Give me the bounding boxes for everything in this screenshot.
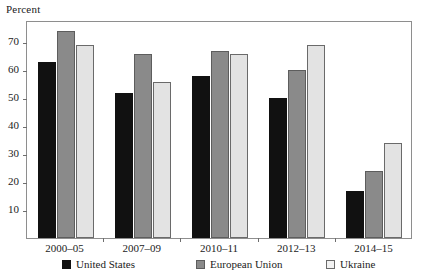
y-axis-unit-label: Percent: [6, 3, 40, 15]
bar-chart-figure: Percent 10203040506070 2000–052007–09201…: [0, 0, 421, 279]
y-axis-tick-label: 70: [8, 36, 19, 47]
bar-ukraine[interactable]: [76, 45, 94, 238]
bar-ukraine[interactable]: [230, 54, 248, 238]
bar-united-states[interactable]: [192, 76, 210, 238]
bar-european-union[interactable]: [365, 171, 383, 238]
bar-european-union[interactable]: [288, 70, 306, 238]
y-axis-tick-label: 20: [8, 176, 19, 187]
bar-european-union[interactable]: [211, 51, 229, 238]
bar-group: [104, 22, 181, 238]
bar-group-bars: [181, 22, 258, 238]
bar-united-states[interactable]: [346, 191, 364, 239]
legend-label: United States: [76, 258, 135, 271]
plot-area: 10203040506070: [26, 21, 412, 239]
bar-united-states[interactable]: [38, 62, 56, 238]
legend-swatch-united-states: [62, 260, 71, 269]
bar-group: [27, 22, 104, 238]
bar-united-states[interactable]: [115, 93, 133, 238]
y-axis-tick-label: 50: [8, 92, 19, 103]
legend-swatch-ukraine: [326, 260, 335, 269]
legend-item-ukraine[interactable]: Ukraine: [326, 258, 375, 271]
y-axis-tick-label: 30: [8, 148, 19, 159]
legend-item-united-states[interactable]: United States: [62, 258, 135, 271]
bar-group: [336, 22, 413, 238]
legend-swatch-european-union: [196, 260, 205, 269]
bar-group-bars: [27, 22, 104, 238]
legend-item-european-union[interactable]: European Union: [196, 258, 282, 271]
legend-label: European Union: [210, 258, 282, 271]
bar-ukraine[interactable]: [307, 45, 325, 238]
bar-group-bars: [259, 22, 336, 238]
bar-united-states[interactable]: [269, 98, 287, 238]
x-axis-label: 2014–15: [335, 242, 412, 254]
y-axis-tick-label: 60: [8, 64, 19, 75]
bar-european-union[interactable]: [57, 31, 75, 238]
x-axis-label: 2012–13: [258, 242, 335, 254]
chart-legend: United StatesEuropean UnionUkraine: [0, 258, 421, 276]
bar-group-bars: [104, 22, 181, 238]
y-axis-tick-label: 40: [8, 120, 19, 131]
bar-group: [259, 22, 336, 238]
bar-ukraine[interactable]: [153, 82, 171, 239]
x-axis-label: 2000–05: [26, 242, 103, 254]
bar-group: [181, 22, 258, 238]
y-axis-tick-label: 10: [8, 204, 19, 215]
bar-group-bars: [336, 22, 413, 238]
bar-ukraine[interactable]: [384, 143, 402, 238]
bar-european-union[interactable]: [134, 54, 152, 238]
x-axis-label: 2007–09: [103, 242, 180, 254]
legend-label: Ukraine: [340, 258, 375, 271]
x-axis-label: 2010–11: [180, 242, 257, 254]
